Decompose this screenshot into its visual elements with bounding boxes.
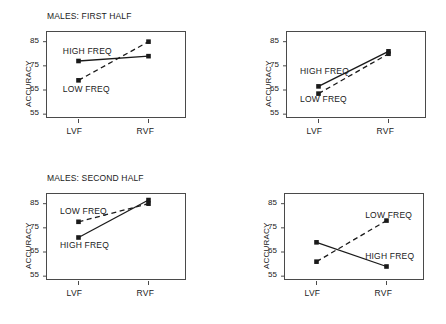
x-axis-tick-label: LVF (67, 126, 83, 136)
x-axis-tick-label: RVF (377, 126, 395, 136)
figure-panel-grid: MALES: FIRST HALF ACCURACY 55657585LVFRV… (0, 0, 446, 324)
data-point-marker (146, 201, 151, 206)
panel-females-second-half: FEMALES: SECOND HALF ACCURACY 55657585LV… (223, 162, 446, 324)
x-axis-tick-label: LVF (305, 288, 321, 298)
y-axis-tick-label: 65 (22, 84, 39, 93)
y-axis-tick-label: 85 (262, 36, 279, 45)
plot-area (46, 31, 186, 118)
data-point-marker (76, 78, 81, 83)
series-annotation-label: LOW FREQ (63, 84, 110, 94)
data-point-marker (146, 39, 151, 44)
series-annotation-label: HIGH FREQ (60, 240, 109, 250)
data-point-marker (146, 54, 151, 59)
x-axis-tick-label: RVF (137, 288, 155, 298)
data-point-marker (76, 59, 81, 64)
panel-title: MALES: SECOND HALF (47, 173, 144, 183)
data-point-marker (384, 264, 389, 269)
data-point-marker (386, 51, 391, 56)
y-axis-tick-label: 75 (22, 222, 39, 231)
y-axis-tick-label: 55 (260, 270, 277, 279)
x-axis-tick-label: RVF (375, 288, 393, 298)
y-axis-tick-label: 65 (260, 246, 277, 255)
series-annotation-label: HIGH FREQ (365, 251, 414, 261)
y-axis-tick-label: 55 (22, 270, 39, 279)
series-annotation-label: HIGH FREQ (63, 46, 112, 56)
panel-males-first-half: MALES: FIRST HALF ACCURACY 55657585LVFRV… (0, 0, 223, 162)
panel-females-first-half: FEMALES: FIRST HALF ACCURACY 55657585LVF… (223, 0, 446, 162)
plot-area (284, 193, 424, 280)
y-axis-tick-label: 75 (262, 60, 279, 69)
data-point-marker (76, 219, 81, 224)
data-point-marker (316, 84, 321, 89)
data-point-marker (76, 235, 81, 240)
x-axis-tick-label: LVF (307, 126, 323, 136)
y-axis-tick-label: 85 (22, 36, 39, 45)
panel-males-second-half: MALES: SECOND HALF ACCURACY 55657585LVFR… (0, 162, 223, 324)
x-axis-tick-label: RVF (137, 126, 155, 136)
data-point-marker (314, 259, 319, 264)
data-point-marker (314, 240, 319, 245)
panel-title: MALES: FIRST HALF (47, 11, 132, 21)
y-axis-tick-label: 65 (22, 246, 39, 255)
plot-lines (285, 194, 425, 281)
y-axis-tick-label: 75 (260, 222, 277, 231)
y-axis-tick-label: 65 (262, 84, 279, 93)
series-line (79, 56, 149, 61)
series-annotation-label: LOW FREQ (60, 206, 107, 216)
y-axis-tick-label: 55 (262, 108, 279, 117)
y-axis-tick-label: 55 (22, 108, 39, 117)
series-annotation-label: HIGH FREQ (300, 66, 349, 76)
y-axis-tick-label: 85 (22, 198, 39, 207)
series-annotation-label: LOW FREQ (365, 210, 412, 220)
x-axis-tick-label: LVF (67, 288, 83, 298)
y-axis-tick-label: 85 (260, 198, 277, 207)
y-axis-tick-label: 75 (22, 60, 39, 69)
series-annotation-label: LOW FREQ (300, 94, 347, 104)
